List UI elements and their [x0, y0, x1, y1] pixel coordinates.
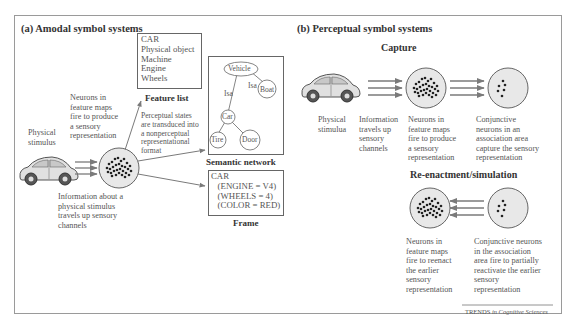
reenact-neurons-label: Neurons in feature maps fire to reenact …	[406, 237, 452, 295]
reenact-conjunctive-neurons	[508, 208, 509, 209]
capture-neurons-label: Neurons in feature maps fire to produce …	[408, 115, 456, 163]
capture-conjunctive-label: Conjunctive neurons in an association ar…	[476, 115, 539, 163]
capture-feature-neurons	[426, 88, 427, 89]
reenactment-heading: Re-enactment/simulation	[410, 169, 517, 180]
journal-credit: TRENDS in Cognitive Sciences	[465, 308, 548, 315]
reenact-feature-neurons	[430, 208, 431, 209]
capture-conjunctive-neurons	[508, 88, 509, 89]
credit-prefix: TRENDS	[465, 308, 490, 315]
capture-stimulus-label: Physical stimulua	[318, 115, 346, 134]
credit-suffix: in Cognitive Sciences	[490, 308, 548, 315]
reenact-conjunctive-label: Conjunctive neurons in the association a…	[474, 237, 542, 295]
capture-info-label: Information travels up sensory channels	[359, 115, 398, 153]
